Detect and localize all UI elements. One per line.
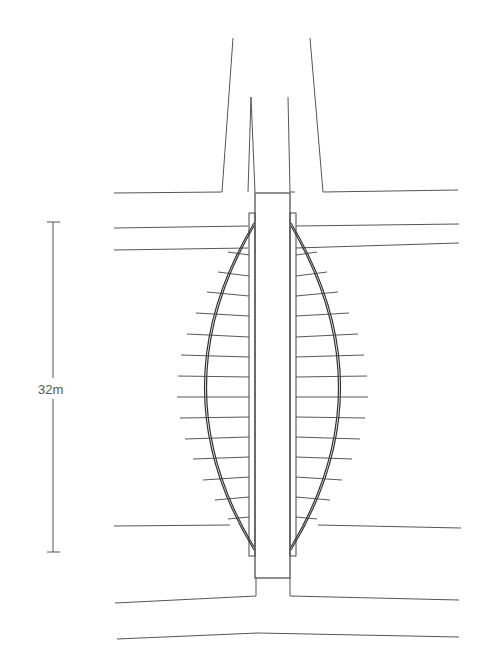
upper-right-road-edge: [310, 38, 458, 192]
lower-road-line: [117, 633, 459, 639]
lower-left-road-edge: [115, 578, 256, 603]
left-arch-outer: [205, 223, 255, 550]
road-line-1-right: [296, 224, 459, 226]
road-line-3-left: [114, 525, 230, 526]
scale-label: 32m: [38, 380, 63, 399]
left-walkway: [249, 213, 255, 556]
road-line-1-left: [114, 226, 248, 228]
right-arch-outer: [291, 223, 341, 550]
bridge-deck: [255, 193, 290, 578]
upper-left-road-edge: [114, 38, 233, 193]
road-line-2-left: [114, 248, 248, 250]
lower-right-road-edge: [290, 578, 459, 600]
road-line-2-right: [296, 243, 459, 248]
upper-right-inner-edge: [288, 97, 295, 192]
upper-left-inner-edge: [248, 97, 255, 192]
right-walkway: [290, 213, 296, 556]
bridge-plan-drawing: [0, 0, 496, 669]
road-line-3-right: [318, 525, 461, 528]
